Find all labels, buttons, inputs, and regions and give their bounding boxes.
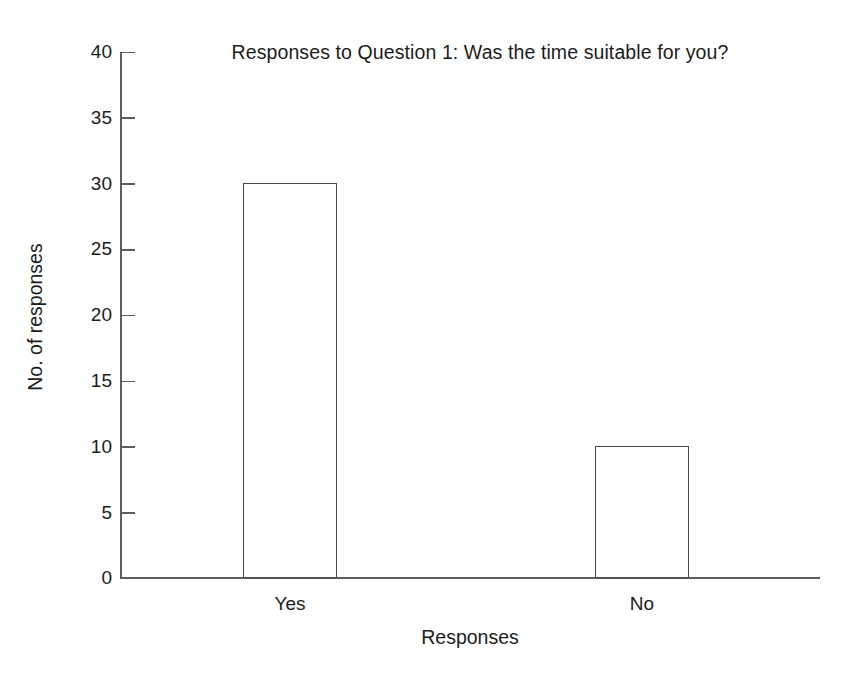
- y-tick-label-40: 40: [72, 42, 112, 61]
- y-tick-label-20: 20: [72, 305, 112, 324]
- bar-chart-figure: Responses to Question 1: Was the time su…: [0, 0, 862, 680]
- y-tick-label-20-wrap: 20: [70, 305, 112, 324]
- x-category-label-yes: Yes: [230, 592, 350, 616]
- y-tick-label-5: 5: [72, 503, 112, 522]
- y-tick-label-10: 10: [72, 437, 112, 456]
- x-axis-title: Responses: [120, 625, 820, 649]
- y-tick-label-25-wrap: 25: [70, 239, 112, 258]
- bar-no[interactable]: [595, 446, 689, 578]
- bar-yes[interactable]: [243, 183, 337, 578]
- y-tick-label-35-wrap: 35: [70, 108, 112, 127]
- y-tick-label-30: 30: [72, 174, 112, 193]
- x-category-label-no: No: [582, 592, 702, 616]
- y-tick-label-25: 25: [72, 239, 112, 258]
- y-tick-mark-20: [120, 315, 135, 317]
- y-tick-mark-5: [120, 512, 135, 514]
- y-axis-title: No. of responses: [24, 207, 46, 427]
- y-tick-mark-15: [120, 381, 135, 383]
- y-tick-label-15-wrap: 15: [70, 371, 112, 390]
- x-axis-line: [120, 577, 820, 579]
- y-tick-mark-25: [120, 249, 135, 251]
- y-tick-label-35: 35: [72, 108, 112, 127]
- y-tick-label-30-wrap: 30: [70, 174, 112, 193]
- y-tick-label-15: 15: [72, 371, 112, 390]
- y-tick-label-5-wrap: 5: [70, 503, 112, 522]
- y-tick-mark-40: [120, 52, 135, 54]
- y-tick-label-10-wrap: 10: [70, 437, 112, 456]
- y-tick-mark-35: [120, 117, 135, 119]
- y-tick-label-40-wrap: 40: [70, 42, 112, 61]
- y-tick-mark-10: [120, 446, 135, 448]
- plot-area: 40 35 30 25 20 15 10 5 0: [0, 0, 862, 680]
- y-tick-label-0: 0: [72, 568, 112, 587]
- y-tick-label-0-wrap: 0: [70, 568, 112, 587]
- y-tick-mark-30: [120, 183, 135, 185]
